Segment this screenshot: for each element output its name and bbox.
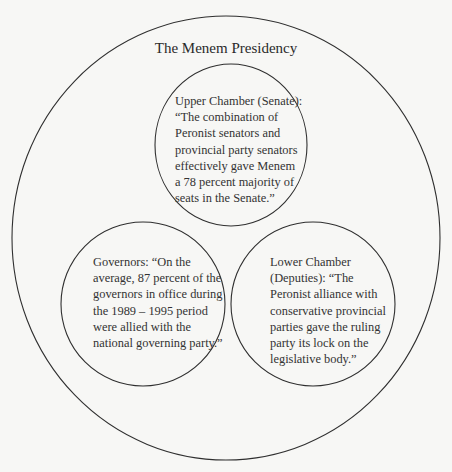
text-line: parties gave the ruling [270,319,386,335]
text-line: were allied with the [93,319,223,335]
text-line: effectively gave Menem [175,158,302,174]
text-line: seats in the Senate.” [175,190,302,206]
diagram-shapes [0,0,452,472]
text-line: Lower Chamber [270,254,386,270]
menem-presidency-diagram: The Menem Presidency Upper Chamber (Sena… [0,0,452,472]
text-line: a 78 percent majority of [175,174,302,190]
governors-text: Governors: “On the average, 87 percent o… [93,254,223,351]
text-line: “The combination of [175,109,302,125]
text-line: Peronist senators and [175,125,302,141]
text-line: Upper Chamber (Senate): [175,93,302,109]
text-line: (Deputies): “The [270,270,386,286]
outer-circle-menem-presidency [12,16,440,460]
text-line: average, 87 percent of the [93,270,223,286]
text-line: the 1989 – 1995 period [93,303,223,319]
lower-chamber-text: Lower Chamber (Deputies): “The Peronist … [270,254,386,367]
text-line: national governing party.” [93,335,223,351]
text-line: conservative provincial [270,303,386,319]
text-line: Peronist alliance with [270,286,386,302]
text-line: party its lock on the [270,335,386,351]
text-line: provincial party senators [175,142,302,158]
text-line: governors in office during [93,286,223,302]
upper-chamber-text: Upper Chamber (Senate): “The combination… [175,93,302,206]
diagram-title: The Menem Presidency [0,40,452,57]
text-line: Governors: “On the [93,254,223,270]
text-line: legislative body.” [270,351,386,367]
